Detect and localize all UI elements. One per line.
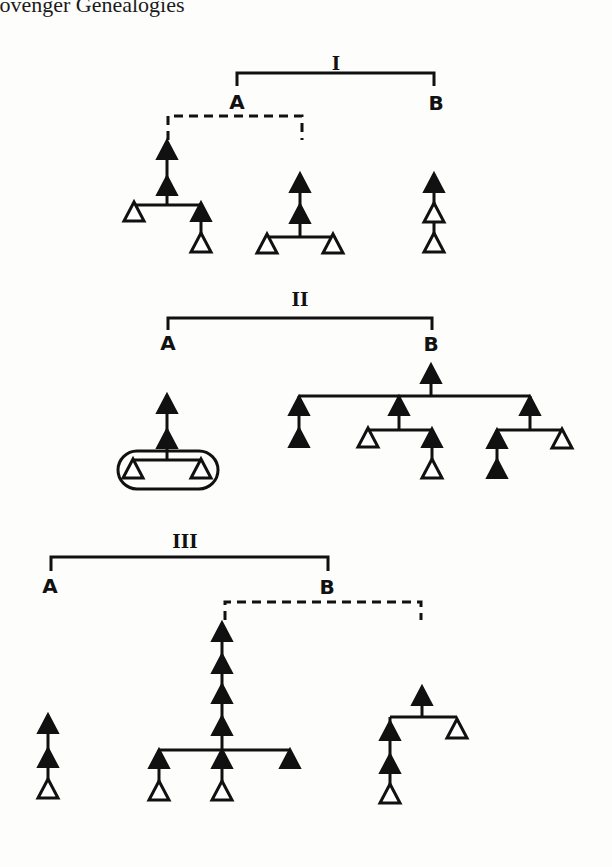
filled-triangle-node: [149, 749, 169, 768]
section-1-label-b: B: [428, 91, 443, 115]
open-triangle-node: [38, 779, 58, 798]
open-triangle-node: [447, 719, 467, 738]
filled-triangle-node: [212, 684, 232, 703]
open-triangle-node: [424, 233, 444, 252]
genealogy-diagram: I A B II A B: [0, 0, 612, 867]
open-triangle-node: [212, 781, 232, 800]
filled-triangle-node: [487, 459, 507, 478]
section-3-label-a: A: [42, 574, 58, 598]
section-2-numeral: II: [292, 289, 309, 310]
section-3-label-b: B: [319, 575, 334, 599]
dashed-link: [225, 602, 421, 620]
filled-triangle-node: [212, 749, 232, 768]
filled-triangle-node: [212, 622, 232, 641]
filled-triangle-node: [389, 396, 409, 415]
filled-triangle-node: [380, 754, 400, 773]
filled-triangle-node: [157, 140, 177, 159]
filled-triangle-node: [157, 176, 177, 195]
filled-triangle-node: [38, 748, 58, 767]
open-triangle-node: [424, 203, 444, 222]
open-triangle-node: [422, 459, 442, 478]
filled-triangle-node: [421, 364, 441, 383]
section-3-numeral: III: [172, 531, 197, 552]
filled-triangle-node: [280, 749, 300, 768]
filled-triangle-node: [157, 429, 177, 448]
filled-triangle-node: [289, 428, 309, 447]
section-2-label-b: B: [423, 332, 438, 356]
filled-triangle-node: [38, 714, 58, 733]
section-3-nodes: [38, 622, 467, 803]
section-3: III A B: [42, 531, 457, 790]
section-1-label-a: A: [229, 90, 245, 114]
section-1-numeral: I: [332, 53, 340, 74]
filled-triangle-node: [157, 394, 177, 413]
filled-triangle-node: [412, 686, 432, 705]
filled-triangle-node: [520, 396, 540, 415]
filled-triangle-node: [290, 204, 310, 223]
filled-triangle-node: [212, 716, 232, 735]
open-triangle-node: [552, 429, 572, 448]
open-triangle-node: [149, 781, 169, 800]
filled-triangle-node: [487, 429, 507, 448]
section-2: II A B: [118, 289, 562, 489]
open-triangle-node: [191, 233, 211, 252]
section-2-label-a: A: [160, 331, 176, 355]
filled-triangle-node: [289, 396, 309, 415]
filled-triangle-node: [212, 654, 232, 673]
dashed-link: [168, 116, 302, 140]
filled-triangle-node: [424, 173, 444, 192]
filled-triangle-node: [380, 721, 400, 740]
open-triangle-node: [191, 459, 211, 478]
open-triangle-node: [123, 459, 143, 478]
section-1: I A B: [134, 53, 444, 240]
open-triangle-node: [380, 784, 400, 803]
filled-triangle-node: [290, 173, 310, 192]
